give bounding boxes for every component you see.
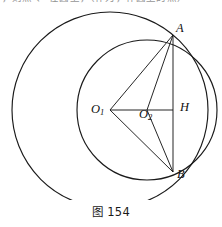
clipped-text-line: ，则点 、 在圆上，（作为，作圆上的点） <box>2 0 222 3</box>
label-center-o2-base: O <box>139 107 148 121</box>
label-point-a: A <box>176 22 184 35</box>
figure-page: ，则点 、 在圆上，（作为，作圆上的点） A B H O1 O2 图 154 <box>0 0 222 227</box>
label-center-o1-subscript: 1 <box>100 107 104 117</box>
label-center-o2: O2 <box>139 108 152 122</box>
figure-caption: 图 154 <box>0 203 222 219</box>
label-center-o1-base: O <box>91 102 100 116</box>
segment-o2-a <box>147 35 173 110</box>
label-point-h: H <box>180 101 189 114</box>
label-center-o1: O1 <box>91 103 104 117</box>
label-center-o2-subscript: 2 <box>148 112 152 122</box>
label-point-b: B <box>177 168 185 181</box>
